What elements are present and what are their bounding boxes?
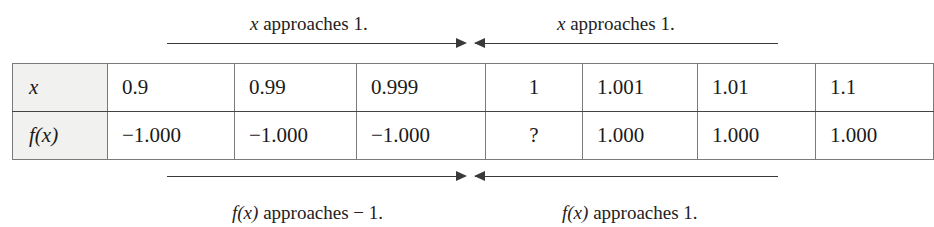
annotation-top-left: x approaches 1. (250, 14, 368, 33)
arrow-line-left-pointing-top (475, 43, 778, 44)
annotation-bottom-left-variable: f(x) (232, 202, 258, 223)
arrow-row-top (0, 38, 835, 50)
table-row: x 0.9 0.99 0.999 1 1.001 1.01 1.1 (13, 64, 934, 112)
annotation-bottom-right-text: approaches 1. (588, 202, 697, 223)
arrowhead-right-bottom-icon (456, 171, 467, 181)
cell-fx-0: −1.000 (108, 112, 235, 160)
cell-fx-1: −1.000 (235, 112, 357, 160)
row-label-fx: f(x) (13, 112, 108, 160)
cell-x-6: 1.1 (816, 64, 934, 112)
cell-x-1: 0.99 (235, 64, 357, 112)
cell-x-3: 1 (486, 64, 583, 112)
cell-x-4: 1.001 (583, 64, 698, 112)
cell-x-0: 0.9 (108, 64, 235, 112)
cell-x-5: 1.01 (698, 64, 816, 112)
cell-fx-6: 1.000 (816, 112, 934, 160)
annotation-bottom-left: f(x) approaches − 1. (232, 203, 383, 222)
arrowhead-right-top-icon (456, 38, 467, 48)
annotation-bottom-right-variable: f(x) (562, 202, 588, 223)
table-row: f(x) −1.000 −1.000 −1.000 ? 1.000 1.000 … (13, 112, 934, 160)
annotation-bottom-left-text: approaches − 1. (258, 202, 383, 223)
limit-value-table: x 0.9 0.99 0.999 1 1.001 1.01 1.1 f(x) −… (12, 63, 934, 160)
arrow-line-left-pointing-bottom (475, 176, 778, 177)
annotation-top-right: x approaches 1. (557, 14, 675, 33)
cell-x-2: 0.999 (357, 64, 486, 112)
cell-fx-4: 1.000 (583, 112, 698, 160)
cell-fx-5: 1.000 (698, 112, 816, 160)
annotation-top-right-text: approaches 1. (565, 13, 674, 34)
arrow-line-right-pointing-top (167, 43, 465, 44)
arrow-row-bottom (0, 171, 835, 183)
annotation-top-left-text: approaches 1. (258, 13, 367, 34)
row-label-x: x (13, 64, 108, 112)
arrow-line-right-pointing-bottom (167, 176, 465, 177)
cell-fx-2: −1.000 (357, 112, 486, 160)
cell-fx-3: ? (486, 112, 583, 160)
annotation-bottom-right: f(x) approaches 1. (562, 203, 698, 222)
